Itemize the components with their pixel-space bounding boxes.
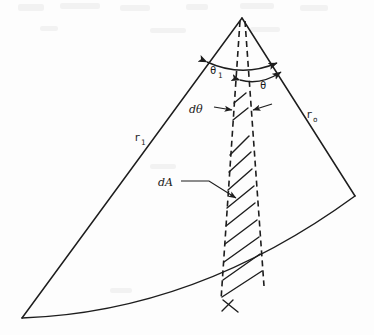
sector-diagram: r 1 r o θ 1 θ dθ dA <box>0 0 374 335</box>
label-d-theta-text: dθ <box>189 103 203 116</box>
label-theta-1-sub: 1 <box>218 71 223 80</box>
label-d-theta: dθ <box>189 103 203 116</box>
label-theta-base: θ <box>260 79 266 91</box>
radius-outer-edge <box>242 18 355 196</box>
label-dA: dA <box>158 176 173 189</box>
sector-arc <box>22 196 355 318</box>
label-dA-text: dA <box>158 176 173 189</box>
strip-right-boundary <box>245 21 264 286</box>
label-r-inner-base: r <box>134 131 140 143</box>
label-r-outer-base: r <box>306 108 312 120</box>
label-r-inner-sub: 1 <box>141 138 146 147</box>
dtheta-arrow-left <box>214 107 232 110</box>
dtheta-arrow-right <box>253 104 272 110</box>
strip-below-arc-hatching <box>222 300 238 312</box>
scan-artifacts <box>18 3 328 293</box>
label-theta-1-base: θ <box>210 64 216 76</box>
figure-canvas: r 1 r o θ 1 θ dθ dA <box>0 0 374 335</box>
label-r-inner: r 1 <box>134 131 146 147</box>
label-r-outer-sub: o <box>313 115 318 124</box>
theta1-arc <box>207 62 277 70</box>
label-theta: θ <box>260 79 266 91</box>
